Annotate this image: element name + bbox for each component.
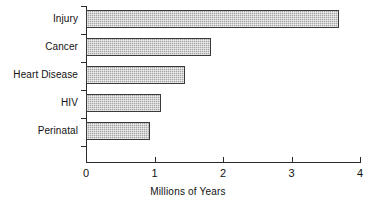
y-axis-label-perinatal: Perinatal [0, 126, 78, 136]
y-axis-label-cancer: Cancer [0, 42, 78, 52]
y-axis-tick [81, 146, 87, 147]
bar-heart-disease [86, 66, 185, 84]
bar-hiv [86, 94, 161, 112]
x-axis-tick-label: 2 [211, 167, 235, 179]
plot-area [86, 6, 360, 162]
x-axis-tick-label: 3 [280, 167, 304, 179]
x-axis-tick [155, 157, 156, 163]
y-axis-label-hiv: HIV [0, 98, 78, 108]
x-axis-tick [360, 157, 361, 163]
bar-cancer [86, 38, 211, 56]
bar-perinatal [86, 122, 150, 140]
y-axis-tick [81, 6, 87, 7]
x-axis-tick-label: 4 [348, 167, 372, 179]
x-axis-title: Millions of Years [0, 186, 376, 197]
y-axis-label-heart-disease: Heart Disease [0, 70, 78, 80]
y-axis-tick [81, 34, 87, 35]
y-axis-tick [81, 90, 87, 91]
bar-injury [86, 10, 339, 28]
y-axis-tick [81, 62, 87, 63]
x-axis-tick-label: 1 [143, 167, 167, 179]
y-axis-tick [81, 118, 87, 119]
y-axis-label-injury: Injury [0, 14, 78, 24]
x-axis-tick [223, 157, 224, 163]
y-axis-category-labels: InjuryCancerHeart DiseaseHIVPerinatal [0, 0, 78, 162]
x-axis-tick [86, 157, 87, 163]
x-axis-tick-label: 0 [74, 167, 98, 179]
bar-chart: InjuryCancerHeart DiseaseHIVPerinatal Mi… [0, 0, 376, 206]
x-axis-tick [292, 157, 293, 163]
